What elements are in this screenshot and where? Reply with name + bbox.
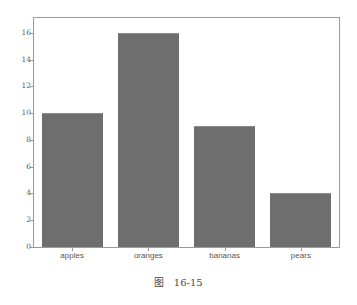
y-tick-label: 8 bbox=[26, 136, 31, 144]
y-tick-label: 2 bbox=[26, 216, 31, 224]
plot-area bbox=[34, 18, 339, 247]
caption-label: 图 bbox=[154, 277, 165, 288]
bar bbox=[194, 126, 255, 247]
figure-caption: 图16-15 bbox=[0, 277, 357, 289]
caption-number: 16-15 bbox=[174, 277, 203, 288]
x-tick-label: oranges bbox=[134, 252, 163, 260]
plot-frame: 0246810121416 applesorangesbananaspears bbox=[33, 17, 340, 248]
y-tick-label: 0 bbox=[26, 243, 31, 251]
y-tick-label: 14 bbox=[21, 56, 31, 64]
figure-container: 0246810121416 applesorangesbananaspears … bbox=[0, 0, 357, 305]
y-tick-label: 10 bbox=[21, 109, 31, 117]
bar bbox=[270, 193, 331, 247]
y-tick-label: 6 bbox=[26, 163, 31, 171]
x-tick-label: bananas bbox=[209, 252, 240, 260]
y-tick-label: 16 bbox=[21, 29, 31, 37]
bar bbox=[118, 33, 179, 247]
y-tick-label: 4 bbox=[26, 190, 31, 198]
x-tick-label: pears bbox=[291, 252, 311, 260]
bar bbox=[42, 113, 103, 247]
y-tick-label: 12 bbox=[21, 83, 31, 91]
x-tick-label: apples bbox=[60, 252, 84, 260]
